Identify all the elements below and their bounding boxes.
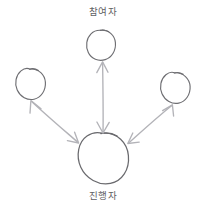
connection-arrow-left-diagonal <box>30 101 79 143</box>
participant-right-outline <box>161 72 191 103</box>
connection-arrow-right-diagonal <box>128 105 174 144</box>
arrow-right-shaft <box>128 105 171 143</box>
arrow-center-shaft <box>103 62 104 132</box>
facilitator-main-outline <box>78 133 128 184</box>
connection-arrow-center-vertical <box>97 62 109 133</box>
participant-top-outline <box>87 30 116 60</box>
participant-left-outline <box>16 68 46 99</box>
node-facilitator-main <box>78 133 128 184</box>
node-participant-left <box>16 68 46 99</box>
arrow-left-head-upleft <box>30 101 41 114</box>
arrow-right-head-upright <box>163 105 174 116</box>
label-participant: 참여자 <box>0 7 206 17</box>
node-participant-top <box>87 30 116 60</box>
label-facilitator: 진행자 <box>0 191 206 201</box>
diagram-canvas: 참여자 진행자 <box>0 0 206 213</box>
diagram-sketch <box>0 0 206 213</box>
node-participant-right <box>161 72 191 103</box>
